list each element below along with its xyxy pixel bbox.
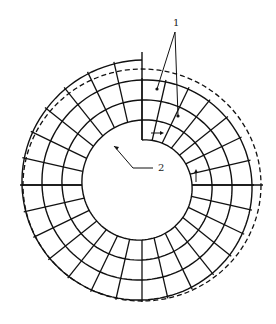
radial-spoke bbox=[24, 198, 84, 212]
radial-spoke bbox=[191, 196, 251, 210]
arrowhead bbox=[194, 169, 198, 173]
annotations bbox=[114, 32, 198, 182]
spiral-ring bbox=[62, 100, 212, 260]
spiral-ring bbox=[42, 80, 232, 280]
radial-spoke bbox=[188, 207, 244, 234]
arrowhead bbox=[160, 131, 164, 135]
annular-grid bbox=[20, 52, 263, 302]
radial-spoke bbox=[22, 158, 82, 172]
leader-arrowhead bbox=[176, 114, 179, 117]
radial-spoke bbox=[190, 160, 250, 174]
inner-hole-edge bbox=[82, 120, 192, 240]
leader-arrowhead bbox=[155, 87, 158, 90]
radial-spoke bbox=[162, 87, 189, 143]
radial-spoke bbox=[152, 80, 166, 140]
label-2: 2 bbox=[158, 162, 164, 173]
radial-spoke bbox=[31, 131, 87, 158]
radial-spoke bbox=[154, 238, 168, 298]
leader-line-2 bbox=[114, 146, 153, 168]
radial-spoke bbox=[116, 239, 130, 299]
spiral-grid-diagram: 1 2 bbox=[0, 0, 276, 324]
label-1: 1 bbox=[173, 17, 179, 28]
